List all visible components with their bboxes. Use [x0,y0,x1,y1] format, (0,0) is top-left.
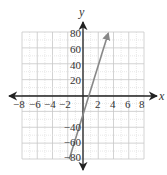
y-tick-label: 60 [70,43,82,55]
x-tick-label: −4 [44,98,56,110]
x-tick-label: 6 [125,98,131,110]
y-tick-label: −80 [64,151,82,163]
x-tick-label: 8 [139,98,145,110]
coordinate-plane: x y −8 −6 −4 −2 2 4 6 8 80 60 40 20 −40 … [0,0,167,175]
x-tick-label: −2 [59,98,71,110]
y-tick-label: 20 [70,74,82,86]
x-tick-label: −8 [13,98,25,110]
y-tick-label: 80 [70,27,82,39]
y-tick-labels: 80 60 40 20 −40 −60 −80 [64,27,82,163]
x-tick-label: −6 [29,98,41,110]
x-tick-label: 4 [110,98,116,110]
y-tick-label: 40 [70,59,82,71]
x-tick-labels: −8 −6 −4 −2 2 4 6 8 [13,98,145,110]
x-tick-label: 2 [95,98,101,110]
y-tick-label: −40 [64,121,82,133]
x-axis-label: x [158,89,165,103]
y-axis-label: y [78,5,85,19]
y-tick-label: −60 [64,136,82,148]
